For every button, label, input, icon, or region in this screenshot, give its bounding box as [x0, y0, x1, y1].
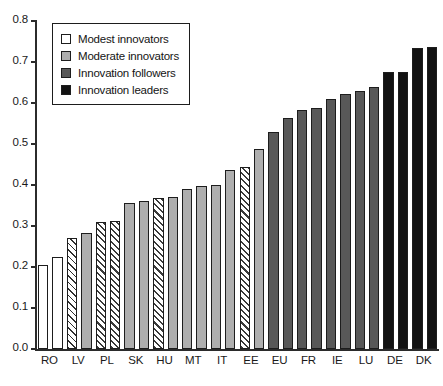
bar [124, 203, 134, 349]
bar [326, 99, 336, 349]
legend-item: Innovation leaders [61, 81, 179, 98]
y-tick-label: 0.8 [13, 13, 28, 25]
legend-swatch [61, 85, 71, 95]
bar [369, 87, 379, 349]
legend-item: Modest innovators [61, 30, 179, 47]
bar [182, 189, 192, 349]
bar [139, 201, 149, 349]
legend-label: Innovation followers [78, 67, 176, 79]
legend-item: Innovation followers [61, 64, 179, 81]
legend-item: Moderate innovators [61, 47, 179, 64]
bar [211, 185, 221, 349]
legend-swatch [61, 68, 71, 78]
bar [412, 48, 422, 349]
bar [240, 167, 250, 349]
legend-label: Innovation leaders [78, 84, 168, 96]
bar [268, 132, 278, 349]
bar [96, 222, 106, 349]
y-tick-label: 0.7 [13, 54, 28, 66]
legend-label: Modest innovators [78, 33, 169, 45]
bar [196, 186, 206, 349]
bar [110, 221, 120, 349]
y-tick-label: 0.3 [13, 218, 28, 230]
bar [254, 149, 264, 349]
bar [52, 257, 62, 349]
y-tick-label: 0.5 [13, 136, 28, 148]
bar [168, 197, 178, 349]
bar [427, 47, 437, 349]
bar [153, 198, 163, 349]
y-tick-label: 0.6 [13, 95, 28, 107]
x-axis-labels: ROLVPLSKHUMTITEEEUFRIELUDEDK [35, 352, 439, 376]
y-tick-label: 0.2 [13, 259, 28, 271]
bar [38, 265, 48, 349]
legend-swatch [61, 51, 71, 61]
bar [398, 72, 408, 349]
bar [283, 118, 293, 349]
bar [340, 94, 350, 349]
y-tick-label: 0.1 [13, 300, 28, 312]
y-tick-label: 0.4 [13, 177, 28, 189]
chart-legend: Modest innovatorsModerate innovatorsInno… [52, 23, 190, 105]
bar [297, 110, 307, 349]
y-tick-label: 0.0 [13, 341, 28, 353]
bar [81, 233, 91, 349]
bar [67, 238, 77, 349]
bar [225, 170, 235, 349]
bar [311, 108, 321, 349]
bar [355, 91, 365, 349]
legend-label: Moderate innovators [78, 50, 179, 62]
x-axis-label: DK [404, 354, 443, 366]
legend-swatch [61, 34, 71, 44]
bar [383, 72, 393, 349]
x-axis-line [35, 349, 439, 351]
innovation-index-bar-chart: 0.00.10.20.30.40.50.60.70.8 ROLVPLSKHUMT… [0, 0, 443, 386]
